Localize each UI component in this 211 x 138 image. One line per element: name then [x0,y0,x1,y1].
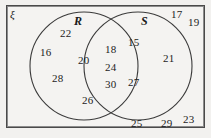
venn-element-15: 15 [128,37,139,48]
set-label-r: R [74,15,82,27]
venn-element-23: 23 [183,114,194,125]
venn-element-26: 26 [82,95,93,106]
venn-element-20: 20 [78,55,89,66]
set-label-s: S [141,15,148,27]
venn-element-27: 27 [128,77,139,88]
venn-diagram-figure: ξ R S 22162028261824301527211719232529 [0,0,211,138]
venn-element-16: 16 [40,47,51,58]
venn-element-25: 25 [131,118,142,129]
venn-element-29: 29 [161,118,172,129]
venn-element-28: 28 [52,73,63,84]
venn-element-22: 22 [60,28,71,39]
venn-element-17: 17 [171,9,182,20]
universal-set-symbol: ξ [10,9,15,20]
venn-element-24: 24 [105,62,116,73]
venn-element-21: 21 [163,53,174,64]
venn-element-19: 19 [188,17,199,28]
venn-element-30: 30 [105,79,116,90]
venn-element-18: 18 [105,44,116,55]
